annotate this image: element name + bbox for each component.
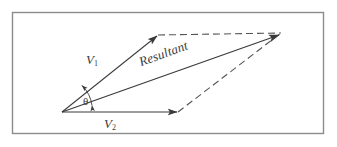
vector-diagram-figure: V1 V2 Resultant θ xyxy=(0,0,337,147)
vector-v1-label-subscript: 1 xyxy=(94,59,98,68)
dashed-line-top xyxy=(158,33,281,35)
vector-v2-label: V2 xyxy=(104,116,116,132)
vector-diagram-canvas xyxy=(0,0,337,147)
vector-v2-label-text: V xyxy=(104,116,112,131)
vector-v1-label: V1 xyxy=(86,52,98,68)
vector-v1-label-text: V xyxy=(86,52,94,67)
vector-v1-arrow xyxy=(62,36,157,112)
angle-theta-label: θ xyxy=(83,95,88,107)
figure-border xyxy=(13,13,324,134)
dashed-line-right xyxy=(178,33,281,112)
vector-v2-label-subscript: 2 xyxy=(112,123,116,132)
